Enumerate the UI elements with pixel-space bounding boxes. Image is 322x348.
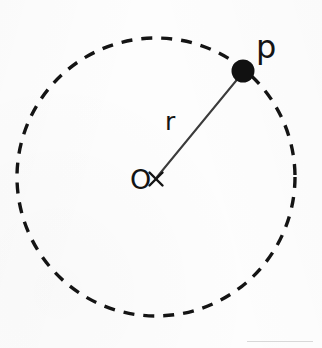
center-marker-icon — [150, 173, 163, 186]
radius-label: r — [165, 107, 176, 136]
point-p-dot — [232, 60, 255, 83]
scan-artifact-line — [247, 341, 313, 342]
center-label: O — [130, 164, 151, 195]
diagram-canvas: O r p — [0, 0, 322, 348]
point-p-label: p — [256, 28, 276, 66]
circle-diagram: O r p — [0, 0, 322, 348]
